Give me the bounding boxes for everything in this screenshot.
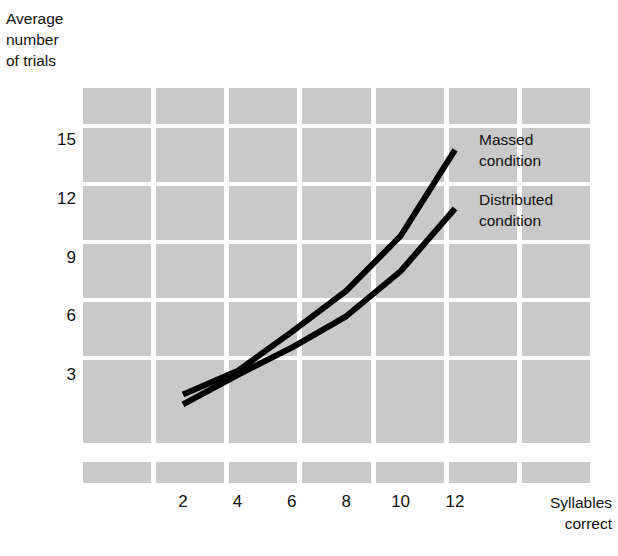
grid-block — [449, 88, 517, 124]
grid-block — [229, 186, 297, 240]
x-axis-tick-8: 8 — [326, 492, 366, 512]
axis-strip — [83, 462, 590, 483]
grid-block — [83, 360, 151, 443]
grid-block — [229, 302, 297, 356]
y-axis-tick-3: 3 — [2, 366, 76, 383]
grid-block — [229, 88, 297, 124]
x-axis-title: Syllables correct — [468, 492, 612, 534]
grid-block — [229, 360, 297, 443]
series-label-distributed: Distributed condition — [479, 189, 553, 231]
axis-strip-block — [449, 462, 517, 483]
grid-block — [83, 186, 151, 240]
grid-block — [83, 88, 151, 124]
x-axis-tick-6: 6 — [272, 492, 312, 512]
axis-strip-block — [83, 462, 151, 483]
grid-block — [156, 302, 224, 356]
grid-block — [156, 186, 224, 240]
grid-block — [156, 360, 224, 443]
grid-block — [449, 302, 517, 356]
grid-block — [229, 244, 297, 298]
grid-block — [229, 128, 297, 182]
y-axis-tick-labels: 1512963 — [0, 0, 76, 556]
grid-block — [83, 244, 151, 298]
grid-block — [302, 244, 370, 298]
grid-block — [376, 360, 444, 443]
grid-block — [302, 88, 370, 124]
grid-block — [522, 302, 590, 356]
series-label-massed: Massed condition — [479, 129, 541, 171]
grid-block — [83, 128, 151, 182]
grid-block — [376, 302, 444, 356]
grid-block — [376, 128, 444, 182]
x-axis-tick-2: 2 — [163, 492, 203, 512]
grid-block — [302, 302, 370, 356]
axis-strip-block — [156, 462, 224, 483]
grid-block — [156, 88, 224, 124]
y-axis-tick-9: 9 — [2, 249, 76, 266]
grid-block — [522, 88, 590, 124]
grid-block — [376, 88, 444, 124]
y-axis-tick-15: 15 — [2, 131, 76, 148]
chart-container: Average number of trials 1512963 2468101… — [0, 0, 618, 556]
grid-block — [522, 360, 590, 443]
grid-block — [156, 128, 224, 182]
y-axis-tick-12: 12 — [2, 190, 76, 207]
grid-block — [156, 244, 224, 298]
axis-strip-block — [302, 462, 370, 483]
axis-strip-block — [522, 462, 590, 483]
y-axis-tick-6: 6 — [2, 307, 76, 324]
grid-block — [376, 186, 444, 240]
axis-strip-block — [376, 462, 444, 483]
grid-block — [522, 244, 590, 298]
x-axis-tick-10: 10 — [381, 492, 421, 512]
grid-block — [302, 128, 370, 182]
grid-block — [302, 360, 370, 443]
grid-block — [449, 360, 517, 443]
x-axis-tick-4: 4 — [217, 492, 257, 512]
grid-block — [302, 186, 370, 240]
grid-block — [83, 302, 151, 356]
grid-block — [376, 244, 444, 298]
axis-strip-block — [229, 462, 297, 483]
grid-block — [449, 244, 517, 298]
